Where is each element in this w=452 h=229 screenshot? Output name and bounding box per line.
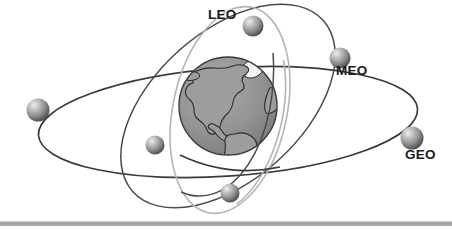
bottom-divider-bar (0, 221, 452, 226)
satellite-orbit-diagram: LEO MEO GEO (0, 0, 452, 229)
orbit-label-geo: GEO (405, 148, 436, 162)
orbit-label-leo: LEO (208, 8, 236, 22)
orbit-illustration (0, 0, 452, 229)
satellite-geo-left[interactable] (27, 99, 50, 122)
satellite-leo-bottom[interactable] (221, 184, 240, 203)
satellite-leo-top[interactable] (243, 16, 264, 37)
orbit-label-meo: MEO (336, 64, 367, 78)
bottom-divider-fill (0, 221, 452, 226)
satellite-meo-lower[interactable] (146, 136, 165, 155)
